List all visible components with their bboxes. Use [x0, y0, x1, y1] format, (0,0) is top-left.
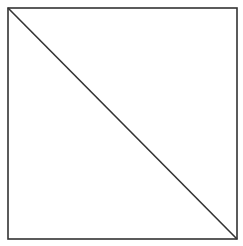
diagram-canvas [0, 0, 243, 246]
diagonal-line [8, 8, 237, 239]
